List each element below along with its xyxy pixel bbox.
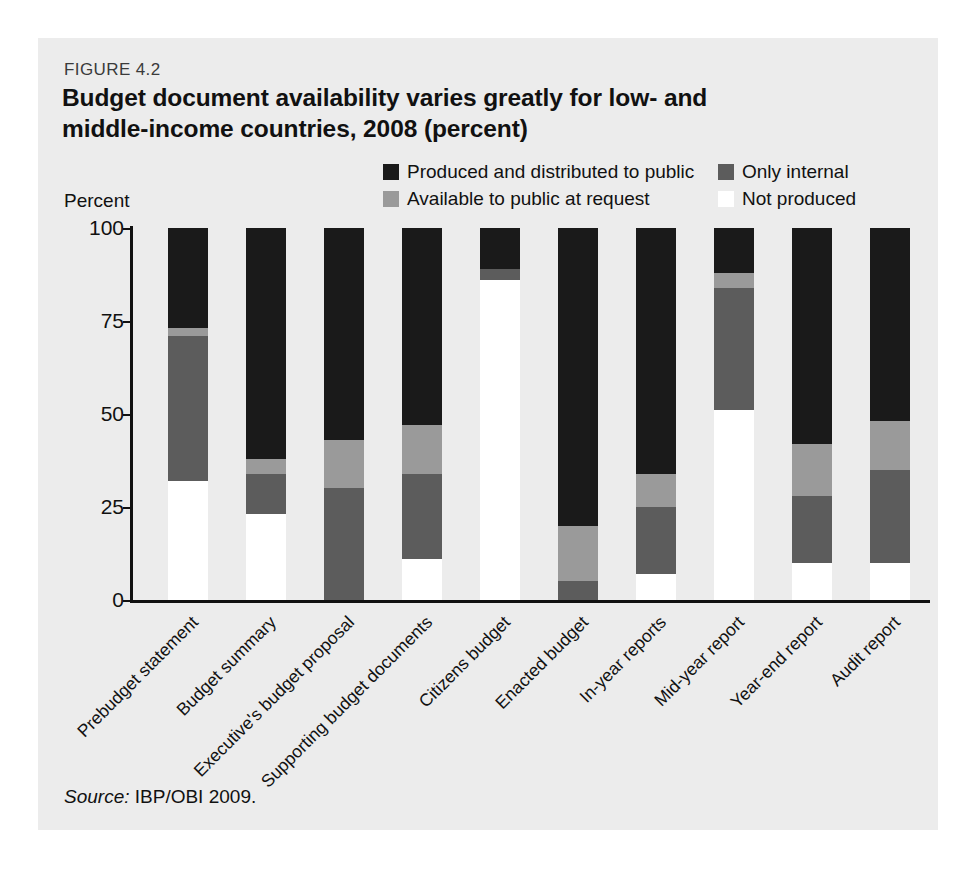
y-axis-tick-mark xyxy=(123,507,130,509)
bar-segment xyxy=(792,228,832,444)
bar-column xyxy=(480,228,520,600)
legend-item: Produced and distributed to public xyxy=(383,162,718,181)
y-axis-tick-label: 75 xyxy=(54,309,124,333)
bar-segment xyxy=(870,421,910,469)
y-axis-tick-mark xyxy=(123,228,130,230)
bar-segment xyxy=(402,474,442,560)
bar-segment xyxy=(870,228,910,421)
bar-segment xyxy=(246,459,286,474)
bar-segment xyxy=(870,563,910,600)
bar-segment xyxy=(324,488,364,600)
x-axis-labels: Prebudget statementBudget summaryExecuti… xyxy=(130,604,950,774)
figure-title: Budget document availability varies grea… xyxy=(62,82,762,145)
y-axis-tick-label: 100 xyxy=(54,216,124,240)
y-axis-tick-mark xyxy=(123,600,130,602)
source-label: Source: xyxy=(64,786,129,807)
legend-item: Available to public at request xyxy=(383,189,718,208)
figure-panel: FIGURE 4.2 Budget document availability … xyxy=(38,38,938,830)
bar-segment xyxy=(168,336,208,481)
x-axis-line xyxy=(130,600,930,603)
y-axis-title: Percent xyxy=(64,190,129,212)
source-value: IBP/OBI 2009. xyxy=(135,786,256,807)
bar-segment xyxy=(402,425,442,473)
source-note: Source: IBP/OBI 2009. xyxy=(64,786,256,808)
bar-segment xyxy=(636,474,676,507)
bar-segment xyxy=(246,474,286,515)
bar-column xyxy=(870,228,910,600)
bar-column xyxy=(636,228,676,600)
legend-label: Produced and distributed to public xyxy=(407,162,694,181)
bar-segment xyxy=(246,514,286,600)
legend-swatch-icon xyxy=(383,191,399,207)
legend-row: Produced and distributed to publicOnly i… xyxy=(383,162,923,187)
plot-area: 1007550250 xyxy=(130,228,930,600)
bar-segment xyxy=(870,470,910,563)
bar-segment xyxy=(714,273,754,288)
bar-segment xyxy=(480,269,520,280)
bar-segment xyxy=(792,496,832,563)
bar-column xyxy=(324,228,364,600)
bar-segment xyxy=(168,481,208,600)
bar-column xyxy=(246,228,286,600)
bar-segment xyxy=(558,228,598,526)
y-axis-tick-mark xyxy=(123,414,130,416)
figure-number: FIGURE 4.2 xyxy=(64,60,161,80)
legend-swatch-icon xyxy=(718,164,734,180)
bar-segment xyxy=(168,228,208,328)
bar-column xyxy=(792,228,832,600)
bar-segment xyxy=(636,507,676,574)
bar-segment xyxy=(324,440,364,488)
bar-column xyxy=(558,228,598,600)
bar-segment xyxy=(714,228,754,273)
chart-legend: Produced and distributed to publicOnly i… xyxy=(383,162,923,216)
legend-label: Only internal xyxy=(742,162,849,181)
legend-item: Only internal xyxy=(718,162,918,181)
bar-segment xyxy=(402,228,442,425)
legend-swatch-icon xyxy=(383,164,399,180)
bar-segment xyxy=(714,288,754,411)
bar-segment xyxy=(246,228,286,459)
bar-segment xyxy=(558,581,598,600)
y-axis-tick-label: 25 xyxy=(54,495,124,519)
bar-segment xyxy=(402,559,442,600)
bar-segment xyxy=(480,280,520,600)
y-axis-tick-label: 50 xyxy=(54,402,124,426)
legend-label: Available to public at request xyxy=(407,189,650,208)
bar-segment xyxy=(792,444,832,496)
bar-segment xyxy=(168,328,208,335)
bar-segment xyxy=(792,563,832,600)
legend-label: Not produced xyxy=(742,189,856,208)
figure-page: FIGURE 4.2 Budget document availability … xyxy=(0,0,978,878)
bar-column xyxy=(168,228,208,600)
bar-segment xyxy=(636,228,676,474)
bar-group xyxy=(130,228,930,600)
y-axis-tick-label: 0 xyxy=(54,588,124,612)
bar-segment xyxy=(480,228,520,269)
legend-item: Not produced xyxy=(718,189,918,208)
bar-column xyxy=(402,228,442,600)
bar-column xyxy=(714,228,754,600)
bar-segment xyxy=(558,526,598,582)
y-axis-tick-mark xyxy=(123,321,130,323)
bar-segment xyxy=(714,410,754,600)
legend-row: Available to public at requestNot produc… xyxy=(383,189,923,214)
legend-swatch-icon xyxy=(718,191,734,207)
bar-segment xyxy=(636,574,676,600)
bar-segment xyxy=(324,228,364,440)
